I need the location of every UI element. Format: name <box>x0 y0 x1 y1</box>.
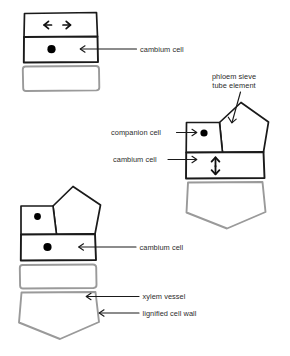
label-lignified-cell-wall: lignified cell wall <box>143 309 197 318</box>
nucleus-dot <box>200 129 207 136</box>
diagram-canvas: cambium cell phloem sieve tube element c… <box>0 0 290 356</box>
differentiated-cell-rect <box>23 66 100 91</box>
xylem-vessel-pentagon <box>19 292 99 339</box>
cambium-cell-dividing-rect <box>24 13 98 38</box>
label-cambium-cell-top: cambium cell <box>140 45 184 54</box>
label-companion-cell: companion cell <box>111 128 161 137</box>
leader-lignified-cell-wall <box>99 310 139 316</box>
diagram-middle-right <box>168 92 269 229</box>
nucleus-dot <box>43 243 51 251</box>
label-cambium-cell-bottom: cambium cell <box>140 243 184 252</box>
nucleus-dot <box>47 45 55 53</box>
phloem-sieve-tube-element-pentagon <box>220 103 269 153</box>
label-phloem-line-2: tube element <box>212 81 255 90</box>
cambium-cell-rect-upper <box>21 206 57 235</box>
leader-cambium-cell-middle <box>168 156 197 162</box>
differentiating-cell-pentagon <box>53 187 101 235</box>
label-cambium-cell-middle: cambium cell <box>113 155 157 164</box>
label-xylem-vessel: xylem vessel <box>143 292 186 301</box>
label-phloem-sieve-tube-element: phloem sieve tube element <box>192 72 276 91</box>
differentiated-cell-rect <box>20 265 97 289</box>
diagram-bottom-left <box>19 187 139 340</box>
diagram-top-left <box>23 13 137 92</box>
cambium-cell-rect <box>186 152 265 179</box>
differentiated-cell-pentagon <box>187 182 266 229</box>
label-phloem-line-1: phloem sieve <box>212 72 256 81</box>
nucleus-dot <box>34 213 41 220</box>
companion-cell-rect <box>186 123 222 153</box>
